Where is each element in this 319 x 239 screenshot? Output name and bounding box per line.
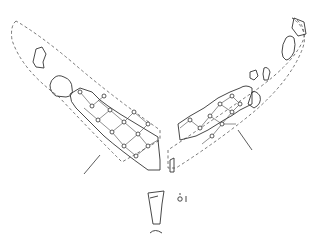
figure-canvas — [0, 0, 319, 239]
cross-section — [148, 191, 186, 233]
fragment-drawing — [0, 0, 319, 239]
right-fragment — [168, 18, 306, 172]
left-fragment — [12, 21, 161, 174]
